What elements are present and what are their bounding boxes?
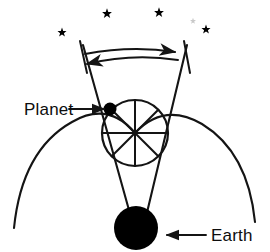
- star-3-icon: [154, 7, 164, 17]
- retrograde-motion-arrow: [87, 57, 178, 64]
- star-field: [58, 7, 211, 36]
- epicycle-diagram: Planet Earth: [0, 0, 270, 252]
- deferent-arc-right: [135, 115, 255, 222]
- star-2-icon: [102, 8, 112, 18]
- star-4-icon: [202, 25, 211, 34]
- earth-body: [114, 206, 158, 250]
- deferent-arc-left: [14, 114, 135, 228]
- astronomy-diagram-canvas: Planet Earth: [0, 0, 270, 252]
- forward-motion-arrow: [85, 49, 175, 54]
- earth-label: Earth: [211, 226, 253, 245]
- planet-body: [104, 103, 117, 116]
- star-5-faint-icon: [190, 18, 196, 24]
- star-1-icon: [58, 28, 67, 37]
- motion-arrow-group: [80, 41, 190, 73]
- planet-label: Planet: [24, 100, 73, 119]
